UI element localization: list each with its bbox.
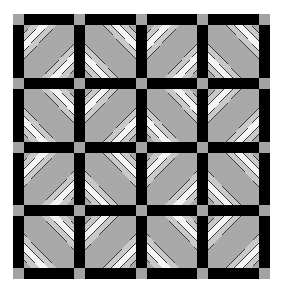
quilt-block xyxy=(85,89,136,142)
quilt-block xyxy=(85,153,136,205)
cornerstone xyxy=(74,142,85,153)
cornerstone xyxy=(197,14,208,25)
cornerstone xyxy=(13,268,24,279)
cornerstone xyxy=(136,205,147,216)
cornerstone xyxy=(136,14,147,25)
cornerstone xyxy=(74,268,85,279)
quilt-block xyxy=(147,25,197,78)
cornerstone xyxy=(13,205,24,216)
cornerstone xyxy=(197,205,208,216)
quilt-block xyxy=(208,216,259,268)
quilt-block xyxy=(24,216,74,268)
quilt-block xyxy=(24,25,74,78)
quilt-block xyxy=(24,89,74,142)
cornerstone xyxy=(136,268,147,279)
quilt-block xyxy=(85,216,136,268)
cornerstone xyxy=(13,14,24,25)
quilt-block xyxy=(147,216,197,268)
cornerstone xyxy=(259,78,270,89)
quilt-block xyxy=(147,153,197,205)
cornerstone xyxy=(13,78,24,89)
cornerstone xyxy=(136,142,147,153)
cornerstone xyxy=(74,14,85,25)
cornerstone xyxy=(74,78,85,89)
cornerstone xyxy=(197,142,208,153)
quilt-block xyxy=(24,153,74,205)
cornerstone xyxy=(259,268,270,279)
cornerstone xyxy=(259,142,270,153)
quilt-block xyxy=(208,153,259,205)
quilt-block xyxy=(147,89,197,142)
quilt-block xyxy=(85,25,136,78)
cornerstone xyxy=(74,205,85,216)
cornerstone xyxy=(197,78,208,89)
cornerstone xyxy=(13,142,24,153)
quilt xyxy=(13,14,270,279)
cornerstone xyxy=(259,14,270,25)
cornerstone xyxy=(197,268,208,279)
cornerstone xyxy=(136,78,147,89)
quilt-block xyxy=(208,25,259,78)
quilt-block xyxy=(208,89,259,142)
cornerstone xyxy=(259,205,270,216)
